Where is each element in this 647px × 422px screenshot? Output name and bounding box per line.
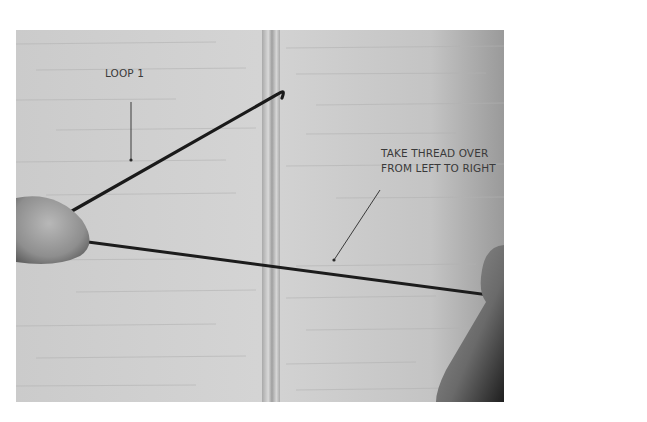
vertical-cord	[262, 30, 280, 402]
wood-background	[16, 30, 504, 402]
instruction-label-line1: TAKE THREAD OVER	[381, 146, 488, 160]
loop-leader-dot	[129, 158, 132, 161]
step-photo	[16, 30, 504, 402]
photo-illustration	[16, 30, 504, 402]
instruction-leader-dot	[332, 258, 335, 261]
instruction-label-line2: FROM LEFT TO RIGHT	[381, 161, 496, 175]
loop-label: LOOP 1	[105, 66, 144, 80]
